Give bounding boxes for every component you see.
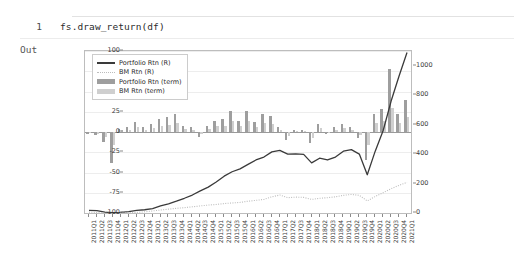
x-axis-tick-label: 2011Q2 [98,220,105,243]
code-input-text[interactable]: fs.draw_return(df) [60,21,165,32]
x-axis-tick-label: 2019Q3 [361,220,368,243]
y-axis-left-tick-label: -50 [90,168,120,176]
x-axis-tick-label: 2016Q1 [249,220,256,243]
x-axis-tick-label: 2020Q1 [376,220,383,243]
x-axis-tick-label: 2015Q3 [233,220,240,243]
legend-item: BM Rtn (R) [97,68,182,78]
x-axis-tick-label: 2015Q1 [217,220,224,243]
x-axis-tick-mark [366,214,367,217]
x-axis-tick-mark [350,214,351,217]
y-axis-right-tick-mark [413,212,416,213]
x-axis-tick-label: 2013Q3 [170,220,177,243]
x-axis-tick-mark [175,214,176,217]
legend-item: BM Rtn (term) [97,87,182,97]
y-axis-right-tick-mark [413,182,416,183]
x-axis-tick-mark [104,214,105,217]
y-axis-right-tick-label: 600 [416,120,450,128]
legend-line-solid-icon [97,58,115,67]
chart-line [89,182,407,213]
x-axis-tick-mark [239,214,240,217]
x-axis-tick-label: 2018Q4 [337,220,344,243]
x-axis-tick-mark [382,214,383,217]
x-axis-tick-mark [231,214,232,217]
x-axis-tick-mark [303,214,304,217]
y-axis-right-tick-mark [413,94,416,95]
x-axis-tick-label: 2019Q1 [345,220,352,243]
top-divider [72,16,514,17]
x-axis-tick-mark [390,214,391,217]
x-axis-tick-label: 2017Q4 [305,220,312,243]
x-axis-tick-mark [319,214,320,217]
y-axis-left-tick-mark [120,131,123,132]
x-axis-tick-mark [215,214,216,217]
x-axis-tick-label: 2014Q3 [201,220,208,243]
x-axis-tick-mark [96,214,97,217]
x-axis-tick-label: 2011Q1 [90,220,97,243]
legend-line-dotted-icon [97,68,115,77]
y-axis-left-tick-label: -25 [90,147,120,155]
x-axis-tick-mark [199,214,200,217]
x-axis-tick-label: 2017Q1 [281,220,288,243]
y-axis-right-tick-label: 1000 [416,61,450,69]
x-axis-tick-mark [247,214,248,217]
x-axis-tick-label: 2014Q2 [194,220,201,243]
y-axis-left-tick-mark [120,151,123,152]
x-axis-tick-mark [88,214,89,217]
legend-item-label: Portfolio Rtn (term) [119,78,182,86]
x-axis-tick-mark [183,214,184,217]
x-axis-tick-label: 2012Q4 [146,220,153,243]
x-axis-tick-mark [334,214,335,217]
x-axis-tick-mark [223,214,224,217]
y-axis-left-tick-label: 100 [90,46,120,54]
x-axis-tick-mark [287,214,288,217]
output-label: Out [20,44,37,55]
x-axis-tick-label: 2012Q2 [130,220,137,243]
x-axis-tick-mark [279,214,280,217]
code-cell[interactable]: 1 fs.draw_return(df) [0,18,514,38]
x-axis-tick-label: 2015Q4 [241,220,248,243]
x-axis-tick-label: 2011Q4 [114,220,121,243]
x-axis-tick-label: 2019Q2 [353,220,360,243]
x-axis-tick-label: 2018Q2 [321,220,328,243]
y-axis-left-tick-label: -75 [90,188,120,196]
y-axis-left-tick-mark [120,212,123,213]
x-axis-tick-label: 2017Q2 [289,220,296,243]
x-axis-tick-mark [398,214,399,217]
x-axis-tick-label: 2017Q3 [297,220,304,243]
cell-divider [20,38,514,39]
x-axis-tick-label: 2015Q2 [225,220,232,243]
x-axis-tick-mark [112,214,113,217]
x-axis-tick-label: 2018Q1 [313,220,320,243]
x-axis-tick-label: 2014Q4 [209,220,216,243]
x-axis-tick-label: 2020Q4 [400,220,407,243]
x-axis-tick-label: 2012Q1 [122,220,129,243]
y-axis-left-tick-mark [120,191,123,192]
x-axis-tick-label: 2016Q3 [265,220,272,243]
x-axis-tick-mark [295,214,296,217]
y-axis-left-tick-mark [120,171,123,172]
x-axis-tick-mark [136,214,137,217]
legend-item-label: BM Rtn (term) [119,87,165,95]
x-axis-tick-mark [167,214,168,217]
x-axis-tick-label: 2021Q1 [408,220,415,243]
x-axis-tick-label: 2018Q3 [329,220,336,243]
y-axis-right-tick-label: 0 [416,208,450,216]
x-axis-tick-mark [271,214,272,217]
x-axis-tick-mark [207,214,208,217]
legend-bar-swatch-icon [97,77,115,86]
x-axis-tick-mark [311,214,312,217]
x-axis-tick-label: 2012Q3 [138,220,145,243]
y-axis-right-tick-label: 800 [416,90,450,98]
x-axis-tick-label: 2011Q3 [106,220,113,243]
x-axis-tick-mark [152,214,153,217]
x-axis-tick-mark [342,214,343,217]
x-axis-tick-label: 2016Q4 [273,220,280,243]
y-axis-left-tick-label: 25 [90,107,120,115]
notebook-output-cell: 1 fs.draw_return(df) Out 1007550250-25-5… [0,0,514,267]
legend-bar-swatch-icon [97,87,115,96]
y-axis-right-tick-label: 400 [416,149,450,157]
chart-figure: 1007550250-25-50-75-10002004006008001000… [48,44,488,259]
x-axis-tick-mark [128,214,129,217]
code-line-number: 1 [30,21,42,32]
legend-item: Portfolio Rtn (term) [97,77,182,87]
